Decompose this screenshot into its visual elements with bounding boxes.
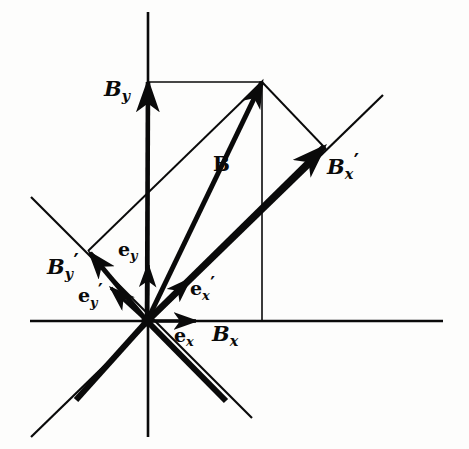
label-B-x: Bx [212, 323, 238, 348]
label-B: B [213, 154, 230, 174]
label-B-y: By [104, 78, 130, 103]
label-e-y: ey [118, 240, 138, 263]
label-e-x: ex [174, 326, 194, 349]
vector-decomposition-figure: By B Bx′ By′ ey ey′ ex′ ex Bx [0, 0, 469, 449]
unit-vector-e-x-prime-arrow [147, 279, 190, 321]
x-prime-lower-ray [76, 321, 147, 400]
label-B-x-prime: Bx′ [327, 152, 359, 181]
label-B-y-prime: By′ [47, 252, 79, 281]
origin-point [141, 315, 152, 326]
unit-vector-e-y-prime-arrow [111, 288, 147, 321]
label-e-y-prime: ey′ [78, 282, 103, 309]
construction-line-to-bx-prime [262, 82, 326, 149]
y-prime-axis-line [31, 197, 252, 418]
figure-canvas [0, 0, 469, 449]
unit-vector-e-y-arrow [147, 265, 148, 321]
construction-line-to-by-prime [88, 82, 262, 251]
label-e-x-prime: ex′ [190, 275, 215, 302]
